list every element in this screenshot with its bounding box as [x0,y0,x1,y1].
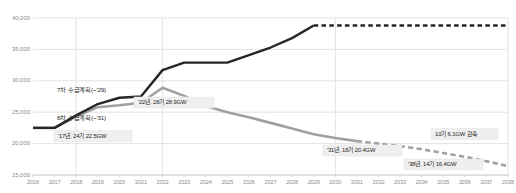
y-axis: 40,000 35,000 30,000 25,000 20,000 15,00… [12,14,31,178]
x-tick-label: 2034 [416,179,428,185]
series-group [33,26,508,167]
x-tick-label: 2016 [27,179,39,185]
annotation-2022-text: '22년, 28기 28.9GW [138,98,187,106]
x-tick-label: 2017 [49,179,61,185]
x-tick-label: 2029 [308,179,320,185]
y-tick-label: 35,000 [12,45,31,52]
y-tick-label: 15,000 [12,171,31,178]
x-tick-label: 2026 [243,179,255,185]
x-tick-label: 2038 [502,179,514,185]
x-tick-label: 2018 [70,179,82,185]
x-axis-labels: 2016201720182019202020212022202320242025… [27,179,514,185]
annotation-plan8: 8차 수급계획(~'31) [57,114,106,122]
y-tick-label: 40,000 [12,14,31,21]
annotation-2031-text: '31년, 18기 20.4GW [327,146,376,154]
x-tick-label: 2025 [221,179,233,185]
annotation-reduction: 10기 6.1GW 감축 [431,129,498,140]
y-tick-label: 30,000 [12,76,31,83]
annotation-plan7-text: 7차 수급계획(~'29) [57,86,106,94]
x-tick-label: 2027 [265,179,277,185]
x-tick-label: 2033 [394,179,406,185]
annotation-2022: '22년, 28기 28.9GW [134,97,214,108]
line-chart: 40,000 35,000 30,000 25,000 20,000 15,00… [0,0,516,193]
x-tick-label: 2032 [373,179,385,185]
x-tick-label: 2020 [113,179,125,185]
x-tick-label: 2036 [459,179,471,185]
x-tick-label: 2035 [437,179,449,185]
x-tick-label: 2021 [135,179,147,185]
y-tick-label: 25,000 [12,108,31,115]
annotation-2038-text: '38년, 14기 16.4GW [408,160,457,168]
annotation-2038: '38년, 14기 16.4GW [404,159,483,170]
x-tick-label: 2019 [92,179,104,185]
annotation-2017-text: '17년, 24기 22.5GW [58,132,107,140]
annotation-2017: '17년, 24기 22.5GW [54,131,132,142]
annotation-plan7: 7차 수급계획(~'29) [57,86,106,94]
x-tick-label: 2024 [200,179,212,185]
annotation-reduction-text: 10기 6.1GW 감축 [435,130,478,138]
annotation-plan8-text: 8차 수급계획(~'31) [57,114,106,122]
chart-container: 40,000 35,000 30,000 25,000 20,000 15,00… [0,0,516,193]
x-tick-label: 2030 [329,179,341,185]
x-tick-label: 2037 [480,179,492,185]
annotation-2031: '31년, 18기 20.4GW [323,145,402,156]
x-tick-label: 2031 [351,179,363,185]
x-tick-label: 2023 [178,179,190,185]
x-tick-label: 2022 [157,179,169,185]
y-tick-label: 20,000 [12,139,31,146]
x-tick-label: 2028 [286,179,298,185]
